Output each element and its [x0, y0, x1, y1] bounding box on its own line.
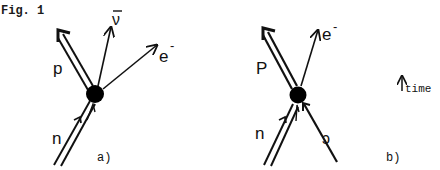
panel-a: n p ν e - a)	[52, 11, 174, 166]
caption-b: b)	[386, 151, 400, 165]
label-n-a: n	[52, 129, 61, 148]
label-electron-charge-a: -	[170, 38, 174, 53]
vertex-blob-b	[290, 87, 307, 104]
caption-a: a)	[97, 151, 111, 165]
neutrino-line-b	[303, 103, 337, 162]
label-electron-charge-b: -	[333, 19, 337, 34]
label-p-b: P	[256, 59, 267, 78]
label-antineutrino-a: ν	[112, 11, 120, 28]
label-electron-b: e	[322, 25, 331, 44]
antineutrino-line-a	[98, 27, 111, 86]
label-neutrino-b: ɔ	[322, 130, 330, 147]
proton-line-a	[58, 30, 93, 90]
feynman-diagram: n p ν e - a) n	[0, 0, 440, 170]
electron-line-a	[103, 45, 157, 89]
label-electron-a: e	[159, 47, 168, 66]
electron-line-b	[301, 30, 318, 86]
label-p-a: p	[53, 59, 62, 78]
neutron-line-b	[264, 104, 299, 166]
time-axis: time	[402, 76, 431, 95]
time-label: time	[405, 83, 431, 95]
label-n-b: n	[255, 124, 264, 143]
proton-line-b	[263, 28, 297, 89]
vertex-blob-a	[86, 85, 104, 103]
panel-b: n ɔ P e - b)	[255, 19, 400, 166]
